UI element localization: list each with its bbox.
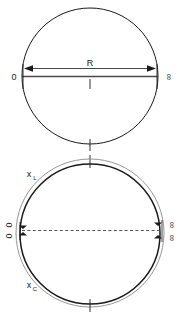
lower-figure-group: 0 0 ∞ ∞ x L x C [4,155,177,312]
lower-upper-arc-label-group: x L [27,169,38,181]
lower-lower-arc-subscript: C [33,286,38,292]
upper-dimension-label: R [87,58,94,68]
lower-right-up-marker-icon [154,235,162,239]
lower-lower-arc-label: x [27,280,32,290]
upper-figure-group: R 0 ∞ [11,8,174,151]
upper-left-endpoint-label: 0 [11,72,16,82]
upper-arrow-head-right-icon [147,65,156,71]
lower-upper-arc-subscript: L [33,175,37,181]
lower-right-down-marker-icon [154,223,162,227]
lower-left-bottom-label: 0 [4,233,14,238]
lower-upper-arc-label: x [27,169,32,179]
lower-right-bottom-label: ∞ [167,235,177,241]
diagram-canvas: R 0 ∞ [0,0,181,321]
lower-left-top-label: 0 [4,222,14,227]
lower-lower-arc-label-group: x C [27,280,38,292]
lower-outer-circle [16,159,164,307]
lower-inner-circle [20,164,160,304]
lower-right-top-label: ∞ [167,222,177,228]
upper-right-endpoint-label: ∞ [164,74,174,80]
upper-arrow-head-left-icon [24,65,33,71]
figure-root: R 0 ∞ [0,0,181,321]
